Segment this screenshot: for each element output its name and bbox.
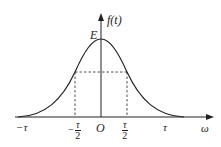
origin-label: O (96, 122, 105, 134)
x-axis-label: ω (201, 123, 209, 134)
y-axis-arrow-icon (98, 13, 104, 21)
bell-curve-diagram: f(t) E O ω −τ − τ 2 τ 2 τ (0, 0, 221, 147)
tick-neg-tau-half: − τ 2 (75, 120, 81, 141)
tick-neg-tau: −τ (16, 122, 27, 133)
y-axis-label: f(t) (107, 14, 122, 26)
tick-tau: τ (163, 122, 167, 133)
tick-tau-half: τ 2 (122, 120, 128, 141)
peak-label: E (90, 29, 97, 41)
x-axis-arrow-icon (206, 114, 214, 120)
